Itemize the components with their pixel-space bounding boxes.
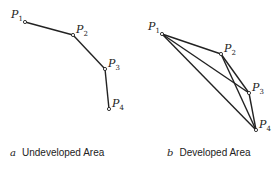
edges <box>25 22 256 130</box>
label-a-P4: P4 <box>111 97 124 112</box>
diagram-canvas: P1P2P3P4P1P2P3P4 <box>0 0 276 170</box>
caption-b: bDeveloped Area <box>167 147 251 158</box>
node-a-P2 <box>71 33 74 36</box>
node-b-P3 <box>247 91 250 94</box>
node-b-P2 <box>219 52 222 55</box>
node-a-P4 <box>107 107 110 110</box>
caption-b-text: Developed Area <box>179 147 250 158</box>
edge-a-P2-P3 <box>73 35 105 69</box>
label-b-P1: P1 <box>147 20 160 35</box>
node-b-P1 <box>160 32 163 35</box>
node-a-P3 <box>103 67 106 70</box>
edge-a-P1-P2 <box>25 22 73 35</box>
label-a-P3: P3 <box>107 57 120 72</box>
label-a-P1: P1 <box>10 8 23 23</box>
label-b-P3: P3 <box>251 81 264 96</box>
caption-a: aUndeveloped Area <box>10 147 104 158</box>
node-b-P4 <box>254 128 257 131</box>
caption-a-text: Undeveloped Area <box>22 147 104 158</box>
edge-b-P1-P3 <box>162 34 249 93</box>
node-a-P1 <box>23 20 26 23</box>
edge-a-P3-P4 <box>105 69 109 109</box>
caption-a-letter: a <box>10 147 16 158</box>
caption-b-letter: b <box>167 147 173 158</box>
label-b-P2: P2 <box>223 42 236 57</box>
label-b-P4: P4 <box>258 118 271 133</box>
edge-b-P2-P3 <box>221 54 249 93</box>
nodes <box>23 20 257 131</box>
label-a-P2: P2 <box>75 23 88 38</box>
